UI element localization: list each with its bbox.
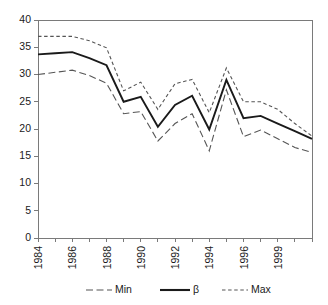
y-tick-label: 15 <box>19 149 31 161</box>
y-tick-label: 30 <box>19 67 31 79</box>
y-tick-label: 5 <box>25 204 31 216</box>
x-tick-label: 1994 <box>203 246 215 270</box>
x-tick-label: 1992 <box>169 246 181 270</box>
plot-frame <box>38 20 312 238</box>
y-tick-label: 20 <box>19 122 31 134</box>
y-tick-label: 25 <box>19 95 31 107</box>
series-group <box>38 36 312 152</box>
x-tick-label: 1986 <box>66 246 78 270</box>
legend-label-max: Max <box>251 283 272 295</box>
legend-label-beta: β <box>193 283 199 295</box>
line-chart-figure: 0510152025303540198419861988199019921994… <box>0 0 328 305</box>
y-tick-label: 40 <box>19 13 31 25</box>
legend-label-min: Min <box>115 283 132 295</box>
x-tick-label: 1996 <box>238 246 250 270</box>
x-tick-label: 1990 <box>135 246 147 270</box>
x-tick-label: 1984 <box>32 246 44 270</box>
x-axis: 19841986198819901992199419961999 <box>32 238 312 269</box>
series-line-min <box>38 70 312 152</box>
series-line-beta <box>38 52 312 139</box>
x-tick-label: 1988 <box>101 246 113 270</box>
x-tick-label: 1999 <box>272 246 284 270</box>
y-tick-label: 35 <box>19 40 31 52</box>
y-axis: 0510152025303540 <box>19 13 38 243</box>
chart-legend: MinβMax <box>86 283 272 295</box>
y-tick-label: 10 <box>19 176 31 188</box>
chart-canvas: 0510152025303540198419861988199019921994… <box>0 0 328 305</box>
y-tick-label: 0 <box>25 231 31 243</box>
